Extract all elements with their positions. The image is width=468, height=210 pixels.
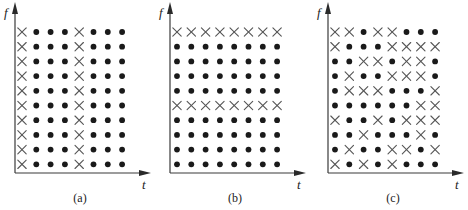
- dot-mark: [432, 161, 438, 167]
- cross-mark: [259, 101, 267, 109]
- cross-mark: [75, 43, 83, 51]
- dot-mark: [346, 59, 352, 65]
- dot-mark: [105, 147, 111, 153]
- cross-mark: [331, 28, 339, 36]
- dot-mark: [105, 44, 111, 50]
- dot-mark: [91, 117, 97, 123]
- dot-mark: [48, 147, 54, 153]
- dot-mark: [231, 147, 237, 153]
- dot-mark: [33, 103, 39, 109]
- dot-mark: [119, 147, 125, 153]
- dot-mark: [389, 103, 395, 109]
- dot-mark: [231, 44, 237, 50]
- f-axis-label: f: [159, 5, 165, 20]
- cross-mark: [374, 28, 382, 36]
- dot-mark: [203, 132, 209, 138]
- cross-mark: [18, 87, 26, 95]
- cross-mark: [173, 28, 181, 36]
- cross-mark: [230, 28, 238, 36]
- dot-mark: [188, 73, 194, 79]
- dot-mark: [332, 88, 338, 94]
- dot-mark: [119, 44, 125, 50]
- dot-mark: [203, 147, 209, 153]
- cross-mark: [374, 87, 382, 95]
- dot-mark: [33, 88, 39, 94]
- panel-c: ft(c): [317, 2, 464, 205]
- panel-caption: (c): [386, 191, 399, 205]
- cross-mark: [402, 145, 410, 153]
- panel-caption: (a): [73, 191, 86, 205]
- cross-mark: [374, 57, 382, 65]
- dot-mark: [33, 29, 39, 35]
- dot-mark: [33, 73, 39, 79]
- cross-mark: [216, 28, 224, 36]
- t-axis-label: t: [142, 177, 146, 192]
- dot-mark: [62, 117, 68, 123]
- dot-mark: [188, 147, 194, 153]
- cross-mark: [374, 116, 382, 124]
- cross-mark: [273, 101, 281, 109]
- dot-mark: [203, 117, 209, 123]
- dot-mark: [174, 73, 180, 79]
- dot-mark: [274, 132, 280, 138]
- cross-mark: [431, 87, 439, 95]
- dot-mark: [361, 73, 367, 79]
- dot-mark: [62, 103, 68, 109]
- cross-mark: [345, 72, 353, 80]
- f-axis-arrow-icon: [12, 2, 18, 14]
- dot-mark: [346, 161, 352, 167]
- dot-mark: [33, 132, 39, 138]
- cross-mark: [417, 116, 425, 124]
- cross-mark: [331, 116, 339, 124]
- dot-mark: [332, 147, 338, 153]
- dot-mark: [246, 73, 252, 79]
- dot-mark: [231, 117, 237, 123]
- dot-mark: [246, 117, 252, 123]
- cross-mark: [18, 116, 26, 124]
- dot-mark: [91, 147, 97, 153]
- dot-mark: [119, 161, 125, 167]
- dot-mark: [188, 44, 194, 50]
- dot-mark: [119, 117, 125, 123]
- cross-mark: [431, 116, 439, 124]
- dot-mark: [91, 44, 97, 50]
- f-axis-arrow-icon: [325, 2, 331, 14]
- cross-mark: [345, 28, 353, 36]
- dot-mark: [48, 132, 54, 138]
- dot-mark: [332, 73, 338, 79]
- dot-mark: [361, 117, 367, 123]
- cross-mark: [331, 160, 339, 168]
- dot-mark: [432, 132, 438, 138]
- cross-mark: [402, 72, 410, 80]
- cross-mark: [18, 28, 26, 36]
- dot-mark: [48, 117, 54, 123]
- dot-mark: [62, 161, 68, 167]
- cross-mark: [388, 160, 396, 168]
- dot-mark: [375, 44, 381, 50]
- cross-mark: [18, 72, 26, 80]
- dot-mark: [48, 59, 54, 65]
- dot-mark: [260, 117, 266, 123]
- dot-mark: [203, 161, 209, 167]
- dot-mark: [217, 88, 223, 94]
- cross-mark: [388, 28, 396, 36]
- dot-mark: [119, 88, 125, 94]
- dot-mark: [91, 29, 97, 35]
- dot-mark: [217, 161, 223, 167]
- dot-mark: [375, 103, 381, 109]
- dot-mark: [404, 132, 410, 138]
- dot-mark: [48, 29, 54, 35]
- dot-mark: [188, 161, 194, 167]
- dot-mark: [203, 59, 209, 65]
- dot-mark: [231, 88, 237, 94]
- dot-mark: [260, 147, 266, 153]
- dot-mark: [260, 132, 266, 138]
- dot-mark: [332, 59, 338, 65]
- dot-mark: [260, 88, 266, 94]
- dot-mark: [203, 88, 209, 94]
- t-axis-arrow-icon: [139, 170, 151, 176]
- t-axis-label: t: [455, 177, 459, 192]
- cross-mark: [75, 116, 83, 124]
- dot-mark: [48, 44, 54, 50]
- cross-mark: [75, 160, 83, 168]
